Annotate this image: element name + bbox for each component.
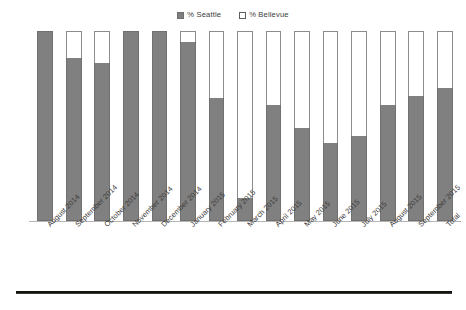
bar-segment-bellevue[interactable]: [266, 31, 282, 105]
bar-group[interactable]: [351, 31, 367, 221]
stacked-bar-chart: % Seattle % Bellevue August 2014Septembe…: [0, 0, 466, 310]
bar-group[interactable]: [323, 31, 339, 221]
bar-group[interactable]: [37, 31, 53, 221]
legend-entry-seattle[interactable]: % Seattle: [177, 11, 221, 19]
bar-segment-bellevue[interactable]: [294, 31, 310, 128]
bar-group[interactable]: [380, 31, 396, 221]
legend-label-bellevue: % Bellevue: [249, 11, 289, 19]
bar-segment-bellevue[interactable]: [209, 31, 225, 98]
legend-entry-bellevue[interactable]: % Bellevue: [239, 11, 289, 19]
bar-group[interactable]: [266, 31, 282, 221]
bar-segment-bellevue[interactable]: [351, 31, 367, 136]
legend-label-seattle: % Seattle: [187, 11, 221, 19]
bar-segment-bellevue[interactable]: [180, 31, 196, 42]
hollow-square-icon: [239, 12, 246, 19]
bar-segment-bellevue[interactable]: [323, 31, 339, 143]
filled-square-icon: [177, 12, 184, 19]
bar-segment-bellevue[interactable]: [66, 31, 82, 58]
bar-group[interactable]: [294, 31, 310, 221]
bar-segment-bellevue[interactable]: [94, 31, 110, 63]
bar-segment-bellevue[interactable]: [237, 31, 253, 198]
bar-segment-bellevue[interactable]: [380, 31, 396, 105]
bar-segment-seattle[interactable]: [37, 31, 53, 221]
category-axis-labels: August 2014September 2014October 2014Nov…: [31, 221, 459, 291]
bar-segment-bellevue[interactable]: [408, 31, 424, 96]
bottom-divider: [16, 291, 452, 293]
bar-segment-bellevue[interactable]: [437, 31, 453, 88]
chart-legend: % Seattle % Bellevue: [0, 7, 466, 23]
